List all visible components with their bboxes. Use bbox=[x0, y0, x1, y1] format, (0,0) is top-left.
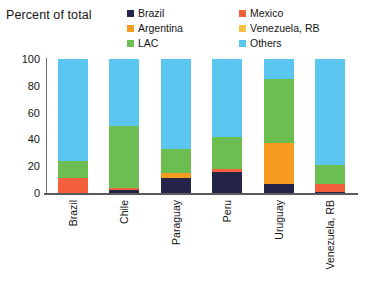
x-axis-label-cell: Chile bbox=[109, 198, 139, 280]
legend-swatch-icon bbox=[239, 25, 246, 32]
bar-segment[interactable] bbox=[315, 192, 345, 193]
legend-label: Argentina bbox=[138, 23, 183, 34]
x-axis-line bbox=[44, 193, 358, 195]
legend-swatch-icon bbox=[127, 25, 134, 32]
bar-segment[interactable] bbox=[58, 59, 88, 161]
bar-segment[interactable] bbox=[212, 59, 242, 137]
bar-column[interactable] bbox=[212, 59, 242, 193]
chart-title: Percent of total bbox=[6, 8, 92, 22]
bar-segment[interactable] bbox=[161, 149, 191, 173]
legend-item[interactable]: Venezuela, RB bbox=[239, 21, 365, 36]
y-axis-tick-label: 60 bbox=[28, 107, 40, 118]
bar-segment[interactable] bbox=[58, 161, 88, 178]
chart-legend: BrazilMexicoArgentinaVenezuela, RBLACOth… bbox=[127, 6, 365, 51]
bar-segment[interactable] bbox=[264, 59, 294, 79]
y-axis: 020406080100 bbox=[0, 52, 44, 193]
legend-label: Others bbox=[250, 38, 282, 49]
y-axis-tick-label: 80 bbox=[28, 80, 40, 91]
legend-label: Venezuela, RB bbox=[250, 23, 319, 34]
chart-header: Percent of total BrazilMexicoArgentinaVe… bbox=[0, 0, 365, 52]
bar-column[interactable] bbox=[161, 59, 191, 193]
legend-item[interactable]: Argentina bbox=[127, 21, 239, 36]
x-axis-label-cell: Venezuela, RB bbox=[315, 198, 345, 280]
y-axis-tick-label: 0 bbox=[34, 188, 40, 199]
x-axis-tick-label: Venezuela, RB bbox=[325, 200, 336, 269]
y-axis-tick-label: 40 bbox=[28, 134, 40, 145]
bar-column[interactable] bbox=[58, 59, 88, 193]
legend-swatch-icon bbox=[127, 40, 134, 47]
x-axis-tick-label: Uruguay bbox=[273, 200, 284, 240]
bar-segment[interactable] bbox=[315, 59, 345, 165]
bar-segment[interactable] bbox=[109, 190, 139, 193]
plot-area: 020406080100 BrazilChileParaguayPeruUrug… bbox=[0, 52, 365, 283]
x-axis-label-cell: Brazil bbox=[58, 198, 88, 280]
bar-segment[interactable] bbox=[264, 143, 294, 183]
legend-swatch-icon bbox=[239, 10, 246, 17]
bar-segment[interactable] bbox=[109, 126, 139, 188]
legend-item[interactable]: Brazil bbox=[127, 6, 239, 21]
x-axis-tick-label: Chile bbox=[119, 200, 130, 224]
bar-column[interactable] bbox=[109, 59, 139, 193]
bar-segment[interactable] bbox=[315, 165, 345, 184]
bar-segment[interactable] bbox=[212, 137, 242, 169]
bar-segment[interactable] bbox=[161, 59, 191, 149]
bar-column[interactable] bbox=[315, 59, 345, 193]
bar-segment[interactable] bbox=[109, 59, 139, 126]
x-axis-tick-label: Peru bbox=[222, 200, 233, 222]
x-axis-tick-label: Paraguay bbox=[170, 200, 181, 245]
x-axis-label-cell: Paraguay bbox=[161, 198, 191, 280]
stacked-bar-chart: Percent of total BrazilMexicoArgentinaVe… bbox=[0, 0, 365, 283]
legend-swatch-icon bbox=[127, 10, 134, 17]
legend-label: LAC bbox=[138, 38, 158, 49]
legend-label: Brazil bbox=[138, 8, 164, 19]
bar-segment[interactable] bbox=[315, 184, 345, 192]
bar-group bbox=[47, 59, 356, 193]
legend-label: Mexico bbox=[250, 8, 283, 19]
bar-segment[interactable] bbox=[264, 79, 294, 143]
x-axis-tick-label: Brazil bbox=[67, 200, 78, 226]
bar-segment[interactable] bbox=[161, 178, 191, 193]
legend-swatch-icon bbox=[239, 40, 246, 47]
bar-column[interactable] bbox=[264, 59, 294, 193]
bar-segment[interactable] bbox=[212, 172, 242, 193]
legend-item[interactable]: LAC bbox=[127, 36, 239, 51]
bar-segment[interactable] bbox=[58, 178, 88, 193]
y-axis-tick-label: 100 bbox=[22, 54, 40, 65]
bar-segment[interactable] bbox=[264, 184, 294, 193]
legend-item[interactable]: Mexico bbox=[239, 6, 365, 21]
y-axis-tick-label: 20 bbox=[28, 161, 40, 172]
x-axis-label-cell: Peru bbox=[212, 198, 242, 280]
x-axis-label-cell: Uruguay bbox=[264, 198, 294, 280]
legend-item[interactable]: Others bbox=[239, 36, 365, 51]
x-axis-labels: BrazilChileParaguayPeruUruguayVenezuela,… bbox=[47, 198, 356, 280]
